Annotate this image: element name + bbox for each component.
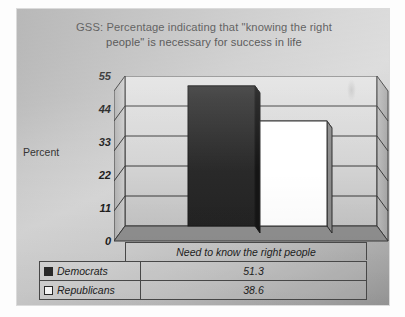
table-row: Democrats 51.3 xyxy=(40,262,367,281)
plot-area xyxy=(114,76,389,241)
chart-object: GSS: Percentage indicating that "knowing… xyxy=(17,9,389,305)
legend-label-republicans: Republicans xyxy=(57,284,115,296)
bar-democrats xyxy=(188,86,260,233)
y-tick-55: 55 xyxy=(77,70,111,82)
plot-right-wall xyxy=(377,76,388,241)
category-label: Need to know the right people xyxy=(125,242,367,260)
plot-left-wall xyxy=(114,76,125,241)
table-row: Republicans 38.6 xyxy=(40,281,367,300)
outline-square-icon xyxy=(44,286,53,295)
y-tick-11: 11 xyxy=(77,202,111,214)
value-republicans: 38.6 xyxy=(141,281,367,300)
plot-svg xyxy=(114,76,389,244)
chart-title-line-1: GSS: Percentage indicating that "knowing… xyxy=(39,20,369,35)
y-tick-33: 33 xyxy=(77,136,111,148)
bar-republicans xyxy=(260,121,332,233)
y-tick-44: 44 xyxy=(77,103,111,115)
legend-item-republicans: Republicans xyxy=(40,281,141,300)
y-axis-tick-labels: 55 44 33 22 11 0 xyxy=(71,76,111,241)
y-tick-22: 22 xyxy=(77,169,111,181)
data-table: Democrats 51.3 Republicans 38.6 xyxy=(39,261,367,300)
chart-title-line-2: people" is necessary for success in life xyxy=(39,35,369,50)
legend-item-democrats: Democrats xyxy=(40,262,141,281)
scanned-page: GSS: Percentage indicating that "knowing… xyxy=(0,0,405,317)
y-tick-0: 0 xyxy=(77,235,111,247)
plot-floor xyxy=(114,226,388,241)
filled-square-icon xyxy=(44,267,53,276)
value-democrats: 51.3 xyxy=(141,262,367,281)
y-axis-title: Percent xyxy=(23,146,59,158)
legend-label-democrats: Democrats xyxy=(57,265,108,277)
chart-title: GSS: Percentage indicating that "knowing… xyxy=(39,20,369,50)
